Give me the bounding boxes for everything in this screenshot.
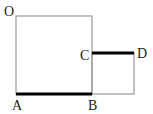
label-b: B bbox=[88, 98, 97, 113]
label-a: A bbox=[12, 98, 23, 113]
geometry-diagram: O A B C D bbox=[0, 0, 153, 114]
label-d: D bbox=[137, 46, 147, 61]
small-square bbox=[92, 53, 134, 94]
label-c: C bbox=[80, 48, 89, 63]
label-o: O bbox=[4, 4, 14, 19]
